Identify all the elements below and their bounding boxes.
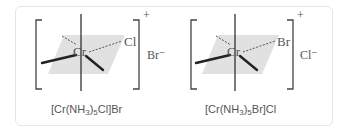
central-atom-label: Cr [227,44,241,59]
structure-chloro-complex: Cr Cl + Br⁻ [36,8,165,91]
left-bracket [191,20,197,89]
formula-bromo-complex: [Cr(NH3)5Br]Cl [205,103,276,117]
right-bracket [287,20,293,89]
central-atom-label: Cr [73,44,87,59]
equatorial-plane [202,35,279,74]
counter-ion: Br⁻ [147,48,165,62]
formula-part: [Cr(NH [51,103,85,115]
left-bracket [36,20,42,89]
counter-ion: Cl⁻ [300,48,318,62]
formula-chloro-complex: [Cr(NH3)5Cl]Br [51,103,122,117]
complex-charge: + [297,8,304,22]
formula-part: [Cr(NH [205,103,239,115]
formula-part: Br]Cl [252,103,276,115]
ligand-label: Br [277,34,291,49]
structure-bromo-complex: Cr Br + Cl⁻ [191,8,318,91]
ligand-label: Cl [124,34,137,49]
complex-charge: + [143,8,150,22]
right-bracket [133,20,139,89]
formula-part: Cl]Br [98,103,122,115]
